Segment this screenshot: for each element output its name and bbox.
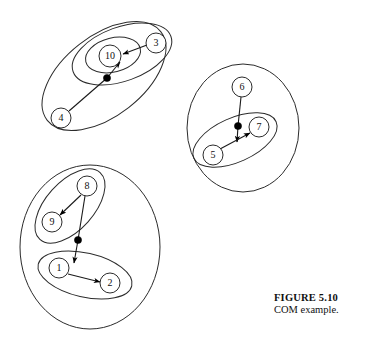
- node-7-label: 7: [257, 121, 262, 132]
- junction-dot-bottom: [74, 236, 81, 243]
- node-3: 3: [146, 33, 166, 53]
- node-10-label: 10: [105, 50, 115, 61]
- cluster-top-left: 10 3 4: [23, 0, 186, 152]
- edge-8-to-dot: [78, 196, 85, 240]
- edge-3-to-node10: [123, 45, 147, 54]
- edge-5-to-7: [220, 133, 250, 149]
- junction-dot-middle: [234, 122, 241, 129]
- figure-caption: FIGURE 5.10 COM example.: [274, 292, 366, 317]
- cluster-top-left-inner-boundary: [64, 11, 180, 97]
- figure-container: 10 3 4 6: [0, 0, 368, 339]
- node-4: 4: [51, 108, 71, 128]
- edge-8-to-9: [60, 195, 81, 215]
- node-9: 9: [42, 212, 62, 232]
- node-1: 1: [49, 258, 69, 278]
- edge-1-to-2: [68, 274, 100, 282]
- figure-caption-text: COM example.: [274, 304, 366, 316]
- node-2-label: 2: [108, 277, 113, 288]
- junction-dot-top-left: [103, 74, 110, 81]
- node-7: 7: [249, 117, 269, 137]
- cluster-middle-inner-boundary: [185, 102, 285, 179]
- node-6: 6: [232, 77, 252, 97]
- node-5-label: 5: [211, 149, 216, 160]
- cluster-bottom-lower-boundary: [33, 243, 136, 307]
- figure-caption-title: FIGURE 5.10: [274, 292, 366, 304]
- node-10: 10: [99, 45, 121, 67]
- node-5: 5: [203, 145, 223, 165]
- node-3-label: 3: [154, 37, 159, 48]
- node-4-label: 4: [59, 112, 64, 123]
- node-8-label: 8: [85, 180, 90, 191]
- node-9-label: 9: [50, 216, 55, 227]
- cluster-bottom: 8 9 1 2: [20, 156, 160, 329]
- cluster-middle: 6 7 5: [185, 64, 299, 192]
- com-example-diagram: 10 3 4 6: [0, 0, 368, 339]
- edge-6-to-dot: [238, 97, 241, 126]
- node-6-label: 6: [240, 81, 245, 92]
- node-2: 2: [100, 273, 120, 293]
- node-1-label: 1: [57, 262, 62, 273]
- node-8: 8: [77, 176, 97, 196]
